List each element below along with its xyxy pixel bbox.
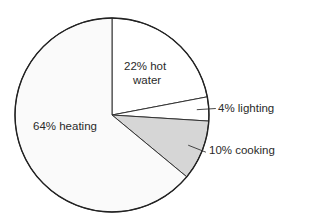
label-heating: 64% heating	[33, 120, 97, 133]
label-lighting: 4% lighting	[218, 102, 274, 115]
label-cooking: 10% cooking	[209, 144, 275, 157]
label-hot-water-line1: 22% hot	[124, 60, 166, 73]
label-hot-water-line2: water	[133, 74, 161, 87]
